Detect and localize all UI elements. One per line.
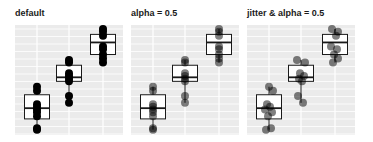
panel-title: jitter & alpha = 0.5 xyxy=(247,8,324,18)
panel-jitter-alpha: jitter & alpha = 0.5 xyxy=(0,0,373,142)
